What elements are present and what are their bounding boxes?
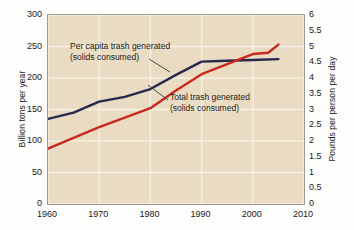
y-tick-label-left: 150	[16, 105, 42, 114]
y-tick-label-right: 0.5	[309, 183, 339, 192]
per-capita-annotation-line2: (solids consumed)	[70, 52, 170, 63]
y-tick-label-right: 3	[309, 105, 339, 114]
y-tick-label-right: 2	[309, 136, 339, 145]
y-tick-label-left: 0	[16, 199, 42, 208]
y-tick-label-right: 5.5	[309, 26, 339, 35]
y-tick-label-right: 2.5	[309, 120, 339, 129]
y-tick-label-right: 4	[309, 73, 339, 82]
y-tick-label-left: 100	[16, 136, 42, 145]
per-capita-annotation-line1: Per capita trash generated	[70, 41, 170, 52]
per-capita-annotation: Per capita trash generated (solids consu…	[70, 41, 170, 63]
x-tick-label: 2000	[232, 209, 272, 219]
y-tick-label-right: 6	[309, 10, 339, 19]
total-trash-annotation: Total trash generated (solids consumed)	[170, 92, 250, 114]
y-tick-label-left: 300	[16, 10, 42, 19]
y-tick-label-right: 5	[309, 42, 339, 51]
x-tick-label: 1960	[27, 209, 67, 219]
x-tick-label: 2010	[283, 209, 323, 219]
chart-figure: Billion tons per year Pounds per person …	[0, 0, 354, 230]
total-trash-annotation-line1: Total trash generated	[170, 92, 250, 103]
total-trash-annotation-line2: (solids consumed)	[170, 103, 250, 114]
x-tick-label: 1970	[78, 209, 118, 219]
y-tick-label-right: 3.5	[309, 89, 339, 98]
x-tick-label: 1990	[181, 209, 221, 219]
y-tick-label-left: 200	[16, 73, 42, 82]
plot-area: Per capita trash generated (solids consu…	[47, 14, 305, 205]
y-tick-label-left: 250	[16, 42, 42, 51]
y-tick-label-right: 0	[309, 199, 339, 208]
y-tick-label-right: 1	[309, 168, 339, 177]
x-tick-label: 1980	[129, 209, 169, 219]
y-tick-label-left: 50	[16, 168, 42, 177]
y-tick-label-right: 1.5	[309, 152, 339, 161]
y-tick-label-right: 4.5	[309, 57, 339, 66]
